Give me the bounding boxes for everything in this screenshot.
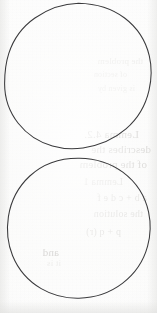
paper-background xyxy=(0,0,157,313)
scanned-page: the problem of section is given by Lemma… xyxy=(0,0,157,313)
